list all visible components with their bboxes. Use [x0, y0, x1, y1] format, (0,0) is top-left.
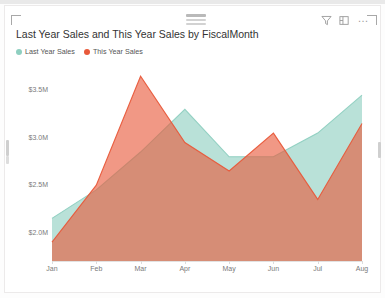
x-axis-label: Apr [165, 265, 205, 272]
x-axis-label: May [209, 265, 249, 272]
x-axis-label: Feb [76, 265, 116, 272]
y-axis-label: $2.5M [14, 181, 48, 188]
x-axis-label: Jan [32, 265, 72, 272]
x-axis-tick [185, 261, 186, 264]
x-axis-tick [362, 261, 363, 264]
x-axis-tick [52, 261, 53, 264]
x-axis-tick [273, 261, 274, 264]
y-axis-label: $3.5M [14, 86, 48, 93]
powerbi-visual-container: … Last Year Sales and This Year Sales by… [0, 0, 385, 298]
area-chart-svg[interactable] [0, 0, 385, 298]
chart-plot-area: $2.0M$2.5M$3.0M$3.5M JanFebMarAprMayJunJ… [0, 0, 385, 298]
y-axis-label: $3.0M [14, 134, 48, 141]
x-axis-label: Aug [342, 265, 382, 272]
x-axis-label: Jun [253, 265, 293, 272]
x-axis-tick [96, 261, 97, 264]
x-axis-label: Jul [298, 265, 338, 272]
x-axis-line [52, 261, 362, 262]
y-axis-label: $2.0M [14, 229, 48, 236]
x-axis-tick [229, 261, 230, 264]
x-axis-tick [318, 261, 319, 264]
x-axis-tick [141, 261, 142, 264]
x-axis-label: Mar [121, 265, 161, 272]
